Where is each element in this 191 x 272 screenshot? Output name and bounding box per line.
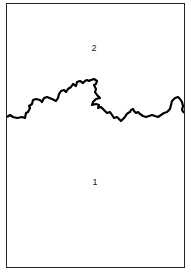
- region-label-upper: 2: [91, 43, 96, 53]
- boundary-line: [0, 0, 191, 272]
- region-label-lower: 1: [92, 177, 97, 187]
